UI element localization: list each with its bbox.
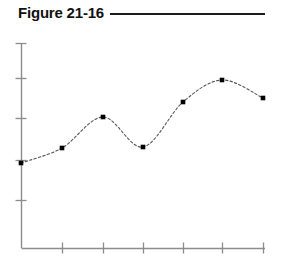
data-marker-layer bbox=[19, 78, 266, 166]
data-point-marker-4 bbox=[181, 100, 186, 105]
caption-rule-divider bbox=[110, 13, 265, 15]
data-curve-path bbox=[21, 80, 263, 163]
data-point-marker-1 bbox=[60, 146, 65, 151]
axis-layer bbox=[16, 43, 266, 254]
data-point-marker-0 bbox=[19, 161, 24, 166]
plot-area bbox=[0, 26, 281, 275]
data-curve-layer bbox=[21, 80, 263, 163]
figure-caption-row: Figure 21-16 bbox=[0, 4, 281, 26]
figure-container: Figure 21-16 bbox=[0, 0, 281, 275]
data-point-marker-2 bbox=[101, 115, 106, 120]
data-point-marker-5 bbox=[220, 78, 225, 83]
data-point-marker-3 bbox=[141, 145, 146, 150]
figure-caption-label: Figure 21-16 bbox=[18, 4, 104, 22]
line-chart-svg bbox=[0, 26, 281, 275]
data-point-marker-6 bbox=[261, 96, 266, 101]
